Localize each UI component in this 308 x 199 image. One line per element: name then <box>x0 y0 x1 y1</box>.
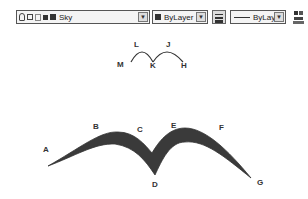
label-c: C <box>137 125 143 134</box>
label-l: L <box>134 40 139 49</box>
label-j: J <box>166 40 170 49</box>
label-h: H <box>181 61 187 70</box>
label-k: K <box>150 61 156 70</box>
label-g: G <box>257 178 263 187</box>
wing-shape <box>48 128 251 178</box>
label-m: M <box>117 60 124 69</box>
arc-kjh <box>153 52 183 62</box>
drawing-canvas <box>0 0 308 199</box>
label-b: B <box>93 122 99 131</box>
label-a: A <box>43 145 49 154</box>
label-e: E <box>171 121 176 130</box>
label-d: D <box>152 180 158 189</box>
label-f: F <box>219 123 224 132</box>
